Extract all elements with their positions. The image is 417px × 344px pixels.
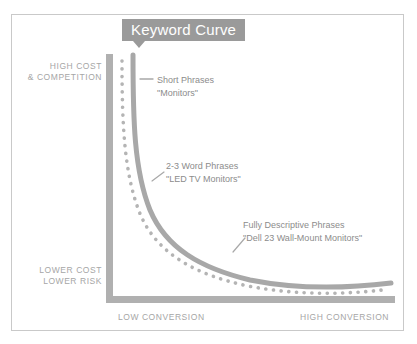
leader-line-two-three-word [152,172,164,181]
y-axis-bottom-label: LOWER COST LOWER RISK [16,265,102,287]
x-axis-left-label: LOW CONVERSION [118,312,205,323]
chart-title-banner: Keyword Curve [122,19,245,41]
x-axis-right-label: HIGH CONVERSION [300,312,389,323]
y-axis-top-label-line2: & COMPETITION [16,72,102,83]
y-axis-top-label: HIGH COST & COMPETITION [16,61,102,83]
annotation-short-phrases-line2: "Monitors" [157,87,214,100]
annotation-two-three-word-phrases: 2-3 Word Phrases "LED TV Monitors" [166,160,241,185]
annotation-fully-descriptive-phrases-line2: "Dell 23 Wall-Mount Monitors" [243,232,362,245]
x-axis-bar [106,296,395,303]
annotation-fully-descriptive-phrases: Fully Descriptive Phrases "Dell 23 Wall-… [243,219,362,244]
chart-title-pointer [133,41,145,48]
y-axis-bottom-label-line2: LOWER RISK [16,276,102,287]
keyword-curve-figure: Keyword Curve HIGH COST & COMPETITION LO… [0,0,417,344]
annotation-fully-descriptive-phrases-line1: Fully Descriptive Phrases [243,219,362,232]
chart-title-text: Keyword Curve [131,21,236,38]
y-axis-bar [106,54,113,303]
annotation-short-phrases-line1: Short Phrases [157,74,214,87]
annotation-short-phrases: Short Phrases "Monitors" [157,74,214,99]
y-axis-top-label-line1: HIGH COST [16,61,102,72]
annotation-two-three-word-phrases-line2: "LED TV Monitors" [166,173,241,186]
y-axis-bottom-label-line1: LOWER COST [16,265,102,276]
annotation-two-three-word-phrases-line1: 2-3 Word Phrases [166,160,241,173]
